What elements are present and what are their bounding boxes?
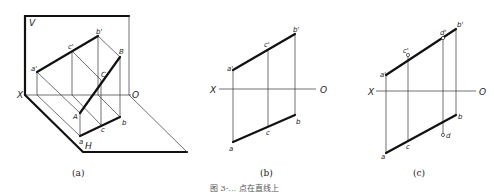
projection-diagram: V X O H a' c' b' B C A b c a (a) X O a' … [0,0,494,192]
label-A: A [72,113,78,121]
label-d-prime: d' [440,29,446,37]
projector [72,51,101,80]
label-c-prime: c' [68,43,74,51]
figure-caption: 图 3-… 点在直线上 [210,183,279,192]
label-b-prime: b' [96,28,102,36]
label-c: c [266,129,270,137]
label-b-prime: b' [293,26,299,34]
line-a-prime-b-prime [37,36,98,72]
label-C: C [101,71,106,79]
label-c: c [101,126,105,134]
label-c: c [406,143,410,151]
h-plane-right-edge [129,95,187,152]
label-B: B [119,48,124,56]
line-ab [233,115,295,142]
point-d-marker [441,133,444,136]
projector [37,72,80,113]
panel-a: V X O H a' c' b' B C A b c a (a) [16,16,187,178]
label-b-prime: b' [457,21,463,29]
label-h: H [85,141,92,151]
label-a: a [229,145,233,153]
panel-b: X O a' c' b' a c b (b) [209,26,327,178]
caption-c: (c) [413,168,425,178]
v-plane-edge [25,16,129,95]
label-x: X [209,85,217,95]
label-a: a [381,153,385,161]
label-x: X [16,90,24,100]
label-a-prime: a' [380,71,386,79]
label-c-prime: c' [403,47,409,55]
label-o: O [132,90,139,100]
caption-b: (b) [260,168,273,178]
label-d: d [446,132,451,140]
panel-c: X O a' c' d' b' a c b d (c) [367,21,486,178]
label-v: V [29,18,36,28]
label-b: b [296,118,301,126]
label-b: b [458,113,463,121]
label-b: b [122,119,127,127]
label-a: a [79,138,83,146]
label-o: O [479,87,486,97]
label-x: X [367,87,375,97]
line-a-prime-b-prime [233,34,295,70]
label-a-prime: a' [31,65,37,73]
label-c-prime: c' [264,41,270,49]
projector [98,36,120,57]
line-ab [80,117,120,136]
label-a-prime: a' [227,65,233,73]
label-o: O [320,85,327,95]
caption-a: (a) [72,168,84,178]
